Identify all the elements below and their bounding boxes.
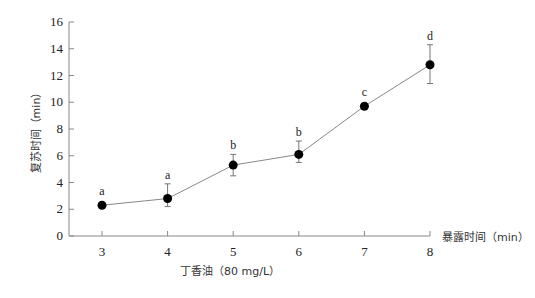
y-tick-label: 10	[50, 94, 63, 109]
data-series: aabbcd	[98, 29, 435, 210]
y-tick-label: 16	[50, 14, 64, 29]
x-tick-label: 3	[99, 244, 106, 259]
significance-letter: a	[165, 168, 171, 182]
line-chart: 0246810121416 345678 aabbcd 复苏时间（min） 暴露…	[0, 0, 535, 298]
y-axis: 0246810121416	[50, 14, 74, 243]
significance-letter: b	[296, 125, 302, 139]
x-axis: 345678	[69, 231, 433, 259]
x-axis-title: 暴露时间（min）	[442, 231, 529, 244]
series-caption: 丁香油（80 mg/L）	[180, 264, 280, 278]
y-tick-label: 4	[57, 175, 64, 190]
y-tick-label: 14	[50, 41, 64, 56]
y-tick-label: 12	[50, 68, 63, 83]
data-point-marker	[229, 161, 238, 170]
series-line	[102, 65, 430, 205]
y-axis-title: 复苏时间（min）	[29, 87, 43, 174]
y-tick-label: 8	[57, 121, 64, 136]
significance-letter: a	[99, 184, 105, 198]
x-tick-label: 6	[296, 244, 303, 259]
significance-letter: b	[230, 138, 236, 152]
y-tick-label: 0	[57, 228, 64, 243]
y-tick-label: 6	[57, 148, 64, 163]
significance-letter: d	[427, 29, 433, 43]
x-tick-label: 8	[427, 244, 434, 259]
x-tick-label: 5	[230, 244, 237, 259]
x-tick-label: 4	[164, 244, 171, 259]
data-point-marker	[294, 150, 303, 159]
data-point-marker	[163, 194, 172, 203]
data-point-marker	[426, 60, 435, 69]
data-point-marker	[98, 201, 107, 210]
data-point-marker	[360, 102, 369, 111]
significance-letter: c	[362, 85, 367, 99]
x-tick-label: 7	[361, 244, 368, 259]
y-tick-label: 2	[57, 201, 64, 216]
